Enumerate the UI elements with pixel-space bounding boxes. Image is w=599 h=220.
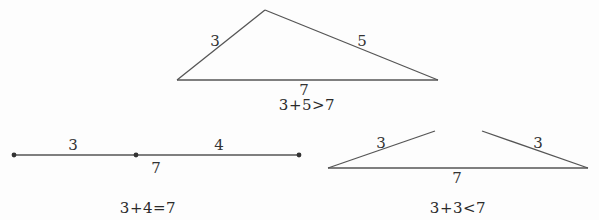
point-start	[12, 153, 17, 158]
side-left	[177, 10, 265, 80]
valid-triangle-left-label: 3	[210, 33, 220, 49]
segment-second-label: 4	[214, 137, 224, 153]
degenerate-caption: 3+4=7	[120, 199, 176, 217]
impossible-triangle-base-label: 7	[452, 170, 462, 186]
segment-total-label: 7	[151, 160, 161, 176]
degenerate-segment-shape	[12, 153, 302, 158]
side-right	[265, 10, 438, 80]
valid-triangle-right-label: 5	[357, 33, 367, 49]
point-middle	[134, 153, 139, 158]
segment-first-label: 3	[68, 137, 78, 153]
impossible-triangle-shape	[328, 131, 588, 168]
impossible-caption: 3+3<7	[430, 199, 486, 217]
point-end	[297, 153, 302, 158]
impossible-triangle-right-label: 3	[533, 135, 543, 151]
impossible-triangle-left-label: 3	[376, 135, 386, 151]
valid-triangle-caption: 3+5>7	[279, 96, 335, 114]
triangle-inequality-figure: 3 5 7 3+5>7 3 4 7 3+4=7 3 3 7 3+3<7	[0, 0, 599, 220]
